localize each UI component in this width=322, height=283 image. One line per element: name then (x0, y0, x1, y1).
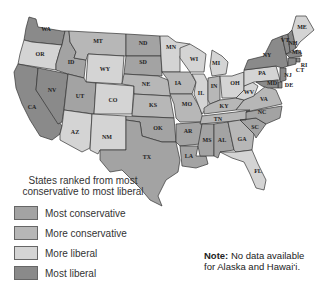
legend-label: More conservative (45, 228, 127, 239)
svg-text:WA: WA (41, 26, 51, 32)
svg-text:MD: MD (267, 80, 278, 86)
svg-text:NE: NE (142, 81, 150, 87)
note-line1: No data available (228, 250, 304, 261)
svg-text:NV: NV (48, 87, 57, 93)
svg-text:KS: KS (149, 102, 158, 108)
svg-text:MN: MN (166, 44, 177, 50)
svg-text:CA: CA (28, 104, 37, 110)
legend-item-most-conservative: Most conservative (8, 203, 158, 223)
swatch-most-liberal (14, 266, 38, 280)
svg-text:NY: NY (263, 52, 272, 58)
svg-text:DE: DE (285, 82, 293, 88)
legend-label: Most conservative (45, 208, 126, 219)
svg-text:IA: IA (175, 80, 182, 86)
note-bold: Note: (204, 250, 228, 261)
svg-text:WY: WY (100, 66, 111, 72)
svg-text:KY: KY (220, 103, 230, 109)
svg-text:IL: IL (198, 90, 204, 96)
legend: States ranked from most conservative to … (8, 175, 158, 283)
state-DE[interactable] (278, 82, 282, 88)
svg-text:MS: MS (203, 137, 213, 143)
legend-label: Most liberal (45, 268, 96, 279)
svg-text:AL: AL (218, 137, 226, 143)
svg-text:ME: ME (297, 24, 307, 30)
legend-title: States ranked from most conservative to … (8, 175, 158, 197)
svg-text:NJ: NJ (284, 72, 291, 78)
note-line2: for Alaska and Hawai‘i. (204, 261, 304, 272)
svg-text:FL: FL (254, 168, 262, 174)
legend-item-more-liberal: More liberal (8, 243, 158, 263)
svg-text:NC: NC (258, 109, 267, 115)
svg-text:NM: NM (102, 134, 112, 140)
svg-text:UT: UT (76, 93, 84, 99)
svg-text:PA: PA (258, 70, 266, 76)
note: Note: No data available for Alaska and H… (204, 250, 304, 272)
svg-text:ID: ID (68, 59, 75, 65)
svg-text:OK: OK (153, 125, 163, 131)
legend-item-more-conservative: More conservative (8, 223, 158, 243)
svg-text:LA: LA (185, 153, 194, 159)
svg-text:SC: SC (251, 124, 259, 130)
svg-text:VA: VA (260, 96, 269, 102)
svg-text:MO: MO (182, 101, 193, 107)
svg-text:AZ: AZ (71, 129, 79, 135)
state-IN[interactable] (208, 76, 220, 104)
legend-title-line1: States ranked from most (8, 175, 158, 186)
swatch-most-conservative (14, 206, 38, 220)
swatch-more-conservative (14, 226, 38, 240)
legend-title-line2: conservative to most liberal (8, 186, 158, 197)
legend-label: More liberal (45, 248, 97, 259)
svg-text:TN: TN (214, 116, 223, 122)
state-RI[interactable] (296, 58, 300, 62)
swatch-more-liberal (14, 246, 38, 260)
svg-text:WI: WI (190, 56, 199, 62)
svg-text:SD: SD (139, 59, 147, 65)
svg-text:IN: IN (211, 83, 218, 89)
svg-text:NH: NH (289, 40, 298, 46)
svg-text:OH: OH (230, 80, 240, 86)
svg-text:MI: MI (212, 60, 221, 66)
legend-item-most-liberal: Most liberal (8, 263, 158, 283)
svg-text:CT: CT (296, 67, 304, 73)
svg-text:WV: WV (244, 89, 255, 95)
svg-text:CO: CO (109, 97, 118, 103)
state-CT[interactable] (288, 58, 296, 66)
svg-text:OR: OR (36, 51, 46, 57)
svg-text:AR: AR (184, 128, 193, 134)
svg-text:ND: ND (139, 40, 148, 46)
svg-text:GA: GA (238, 136, 248, 142)
svg-text:MA: MA (292, 49, 303, 55)
svg-text:MT: MT (93, 38, 103, 44)
svg-text:TX: TX (143, 154, 152, 160)
